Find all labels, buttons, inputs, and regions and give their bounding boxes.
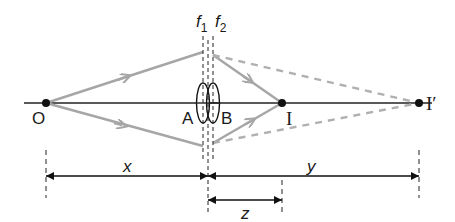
label-a: A <box>182 109 194 128</box>
image-point-i-prime <box>415 99 423 107</box>
label-y: y <box>306 157 317 176</box>
label-o: O <box>32 109 45 128</box>
virtual-rays-to-i-prime <box>213 55 419 143</box>
incident-rays <box>46 52 203 146</box>
ray-diagram: O A B I I′ f1 f2 x y z <box>0 0 455 222</box>
diagram-canvas: O A B I I′ f1 f2 x y z <box>0 0 455 222</box>
refracted-rays <box>213 55 282 143</box>
object-point-o <box>42 99 50 107</box>
label-f1: f1 <box>196 12 208 35</box>
label-f2: f2 <box>215 12 227 35</box>
extension-lines <box>46 150 419 214</box>
image-point-i <box>278 99 286 107</box>
label-b: B <box>221 109 232 128</box>
label-x: x <box>122 157 132 176</box>
label-i: I <box>286 108 292 129</box>
label-i-prime: I′ <box>426 93 436 114</box>
label-z: z <box>240 204 250 222</box>
lens-dashed-guides <box>203 36 213 212</box>
